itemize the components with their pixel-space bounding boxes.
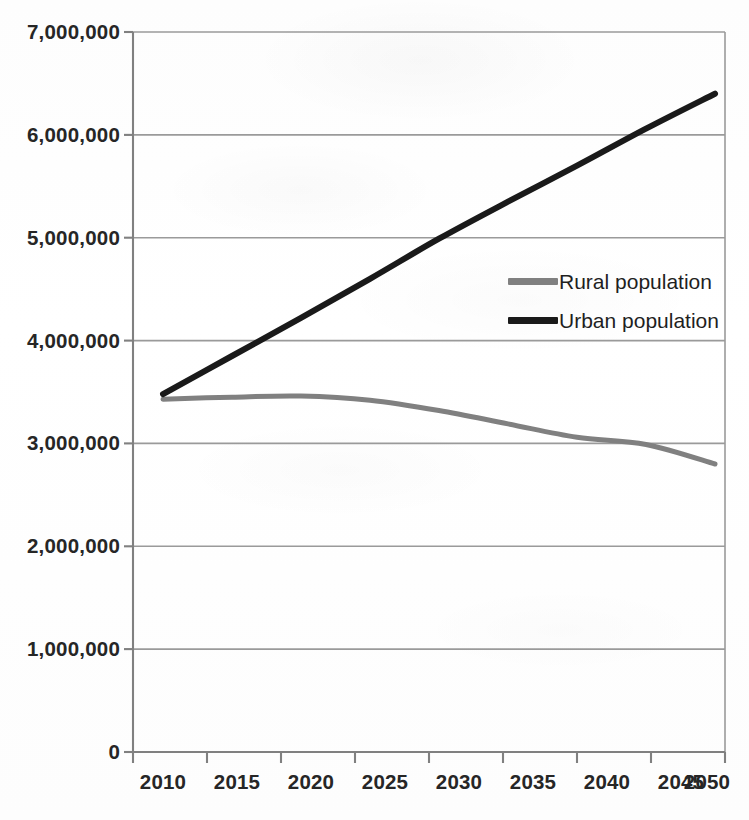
legend-item-rural-population[interactable]: Rural population [508, 262, 744, 301]
y-axis-label-0: 0 [0, 742, 120, 763]
y-axis-ticks [124, 32, 133, 752]
x-axis-label-2015: 2015 [202, 772, 272, 793]
y-axis-label-5000000: 5,000,000 [0, 227, 120, 248]
y-axis-label-7000000: 7,000,000 [0, 22, 120, 43]
x-axis-label-2010: 2010 [128, 772, 198, 793]
series-line-rural-population [163, 396, 715, 464]
x-axis-label-2025: 2025 [350, 772, 420, 793]
chart-legend: Rural population Urban population [508, 262, 744, 340]
legend-label-rural-population: Rural population [558, 271, 712, 292]
legend-swatch-rural-population [508, 278, 558, 285]
x-axis-label-2040: 2040 [572, 772, 642, 793]
y-axis-label-1000000: 1,000,000 [0, 639, 120, 660]
x-axis-ticks [133, 752, 725, 763]
x-axis-label-2030: 2030 [424, 772, 494, 793]
legend-label-urban-population: Urban population [558, 310, 719, 331]
y-axis-label-3000000: 3,000,000 [0, 433, 120, 454]
series-line-urban-population [163, 94, 715, 394]
y-axis-label-6000000: 6,000,000 [0, 125, 120, 146]
gridlines [133, 32, 725, 649]
x-axis-label-2020: 2020 [276, 772, 346, 793]
x-axis-label-2035: 2035 [498, 772, 568, 793]
legend-swatch-urban-population [508, 317, 558, 324]
x-axis-label-2050: 2050 [672, 772, 742, 793]
y-axis-label-4000000: 4,000,000 [0, 330, 120, 351]
line-chart: 7,000,000 6,000,000 5,000,000 4,000,000 … [0, 0, 749, 820]
legend-item-urban-population[interactable]: Urban population [508, 301, 744, 340]
y-axis-label-2000000: 2,000,000 [0, 536, 120, 557]
